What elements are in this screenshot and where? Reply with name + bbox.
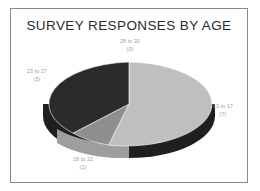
pie-label-23-to-27-value: (5) xyxy=(11,75,63,83)
pie-label-23-to-27-name: 23 to 27 xyxy=(27,68,47,74)
pie-label-18-to-22-value: (1) xyxy=(55,163,111,171)
pie-label-23-to-27: 23 to 27 (5) xyxy=(11,67,63,83)
pie-label-13-to-17-name: 13 to 17 xyxy=(213,103,233,109)
pie-chart xyxy=(11,9,249,184)
pie-label-28-to-30-value: (0) xyxy=(99,45,161,53)
pie-label-28-to-30-name: 28 to 30 xyxy=(120,38,140,44)
pie-label-28-to-30: 28 to 30 (0) xyxy=(99,37,161,53)
pie-label-13-to-17: 13 to 17 (7) xyxy=(197,102,249,118)
pie-label-13-to-17-value: (7) xyxy=(197,110,249,118)
pie-label-18-to-22-name: 18 to 22 xyxy=(73,156,93,162)
pie-svg xyxy=(11,9,249,184)
pie-label-18-to-22: 18 to 22 (1) xyxy=(55,155,111,171)
chart-frame: SURVEY RESPONSES BY AGE xyxy=(10,8,248,183)
